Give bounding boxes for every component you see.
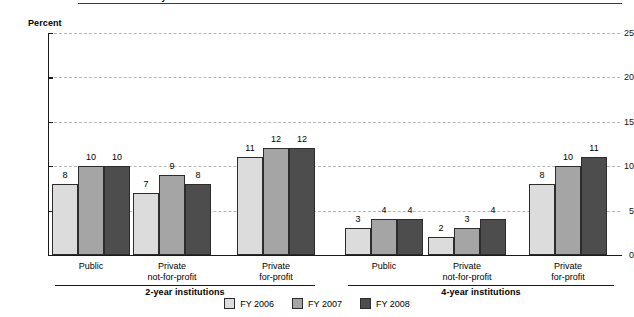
bar [263, 148, 289, 255]
bar [345, 228, 371, 255]
legend-item: FY 2007 [292, 298, 342, 309]
bar-value-label: 10 [104, 152, 130, 162]
chart-legend: FY 2006FY 2007FY 2008 [0, 298, 634, 309]
bar-value-label: 8 [529, 170, 555, 180]
category-label: Public [46, 261, 136, 272]
bar-value-label: 8 [185, 170, 211, 180]
bar-value-label: 11 [237, 143, 263, 153]
plot-area: 8101079811121234423481011 [48, 33, 620, 255]
bar [428, 237, 454, 255]
bar-value-label: 11 [581, 143, 607, 153]
chart-figure: institution: Fiscal years 2006–2008 Perc… [0, 0, 634, 317]
bar [397, 219, 423, 255]
bar-value-label: 10 [78, 152, 104, 162]
legend-item: FY 2008 [360, 298, 410, 309]
bar [529, 184, 555, 255]
bar-value-label: 4 [397, 205, 423, 215]
bar [289, 148, 315, 255]
category-label: Public [339, 261, 429, 272]
bar-value-label: 9 [159, 161, 185, 171]
y-axis-label: Percent [28, 18, 62, 28]
bar-value-label: 10 [555, 152, 581, 162]
category-label: Privatefor-profit [231, 261, 321, 283]
legend-label: FY 2006 [240, 299, 274, 309]
bar-value-label: 12 [289, 134, 315, 144]
category-label-line: for-profit [231, 272, 321, 283]
bar [555, 166, 581, 255]
category-label-line: not-for-profit [127, 272, 217, 283]
legend-label: FY 2007 [308, 299, 342, 309]
bar-value-label: 4 [480, 205, 506, 215]
category-label-line: Private [523, 261, 613, 272]
title-divider [78, 3, 622, 4]
bar [185, 184, 211, 255]
category-label-line: for-profit [523, 272, 613, 283]
bar [159, 175, 185, 255]
bar-value-label: 3 [454, 214, 480, 224]
legend-swatch-icon [292, 298, 303, 309]
bar [480, 219, 506, 255]
category-label-line: Private [231, 261, 321, 272]
bar [52, 184, 78, 255]
bar [371, 219, 397, 255]
bar-value-label: 3 [345, 214, 371, 224]
category-label-line: Public [339, 261, 429, 272]
y-tick-mark [48, 255, 53, 256]
category-label: Privatenot-for-profit [422, 261, 512, 283]
bar [78, 166, 104, 255]
bar-value-label: 7 [133, 179, 159, 189]
bar-value-label: 12 [263, 134, 289, 144]
bar-value-label: 2 [428, 223, 454, 233]
chart-title: institution: Fiscal years 2006–2008 [78, 0, 238, 2]
bar-value-label: 4 [371, 205, 397, 215]
chart-title-strip: institution: Fiscal years 2006–2008 [0, 0, 634, 7]
category-label-line: not-for-profit [422, 272, 512, 283]
bar [104, 166, 130, 255]
category-label-line: Private [127, 261, 217, 272]
category-label: Privatenot-for-profit [127, 261, 217, 283]
bar-value-label: 8 [52, 170, 78, 180]
bar [133, 193, 159, 255]
legend-swatch-icon [224, 298, 235, 309]
legend-item: FY 2006 [224, 298, 274, 309]
legend-label: FY 2008 [376, 299, 410, 309]
bar [581, 157, 607, 255]
bar [454, 228, 480, 255]
supercategory-label: 4-year institutions [348, 287, 614, 297]
legend-swatch-icon [360, 298, 371, 309]
category-label-line: Public [46, 261, 136, 272]
category-label-line: Private [422, 261, 512, 272]
category-label: Privatefor-profit [523, 261, 613, 283]
bar [237, 157, 263, 255]
supercategory-label: 2-year institutions [55, 287, 315, 297]
